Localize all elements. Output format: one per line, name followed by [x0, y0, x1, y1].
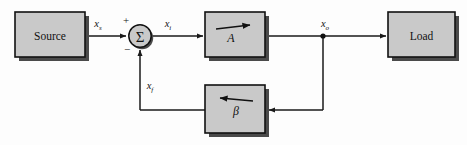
amplifier-gain-label: A [226, 31, 235, 45]
signal-label-feedback-subscript: f [151, 86, 154, 94]
signal-label-source-subscript: s [99, 24, 102, 32]
amplifier-block-body [205, 12, 265, 57]
feedback-gain-label: β [232, 104, 239, 118]
source-block-label: Source [34, 30, 66, 42]
load-block[interactable]: Load [388, 12, 459, 61]
summing-junction-minus-sign: − [124, 43, 130, 55]
signal-label-output: xo [320, 18, 330, 32]
svg-text:xs: xs [93, 18, 102, 32]
signal-label-feedback: xf [146, 80, 155, 94]
source-block[interactable]: Source [15, 12, 89, 61]
signal-label-output-subscript: o [326, 24, 330, 32]
feedback-block[interactable]: β [205, 85, 269, 137]
summing-junction-plus-sign: + [123, 14, 129, 26]
load-block-label: Load [410, 30, 434, 42]
summing-junction-sigma: Σ [136, 29, 145, 45]
signal-label-input: xi [164, 18, 172, 32]
svg-text:xf: xf [146, 80, 155, 94]
signal-label-source: xs [93, 18, 102, 32]
amplifier-block[interactable]: A [205, 12, 269, 61]
signal-label-input-subscript: i [169, 24, 171, 32]
svg-text:xo: xo [320, 18, 330, 32]
svg-text:xi: xi [164, 18, 172, 32]
output-junction-dot [320, 33, 325, 38]
feedback-amplifier-diagram: Source Σ + − A Load β [0, 0, 467, 145]
summing-junction[interactable]: Σ + − [123, 14, 153, 55]
